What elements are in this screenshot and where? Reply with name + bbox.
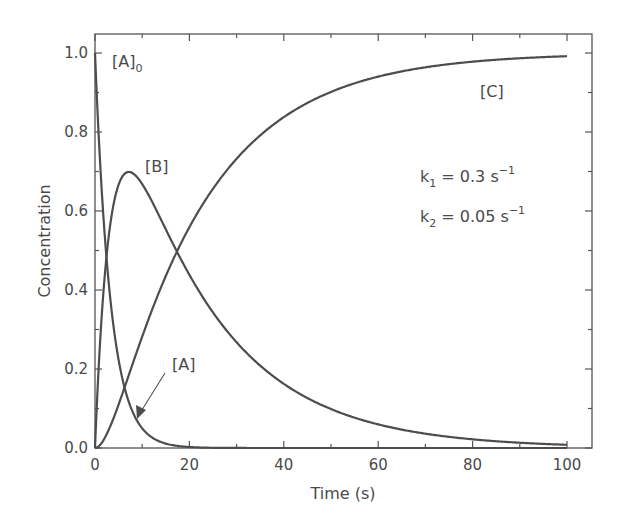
x-tick-label: 60: [369, 456, 388, 474]
y-tick-label: 0.8: [64, 123, 88, 141]
arrow-A-line: [140, 373, 165, 413]
y-tick-label: 0.4: [64, 281, 88, 299]
curves: [95, 53, 567, 448]
label-C: [C]: [480, 82, 504, 101]
label-A0: [A]0: [112, 52, 142, 75]
kinetics-chart: 0204060801000.00.20.40.60.81.0 Time (s) …: [0, 0, 628, 529]
x-tick-label: 0: [90, 456, 100, 474]
x-tick-label: 100: [553, 456, 582, 474]
k1-annotation: k1 = 0.3 s−1: [420, 164, 515, 190]
y-tick-label: 0.0: [64, 439, 88, 457]
y-tick-label: 0.6: [64, 202, 88, 220]
x-axis-label: Time (s): [309, 484, 375, 503]
curve-C: [95, 56, 567, 448]
x-tick-label: 80: [463, 456, 482, 474]
y-tick-label: 0.2: [64, 360, 88, 378]
y-tick-label: 1.0: [64, 44, 88, 62]
k2-annotation: k2 = 0.05 s−1: [420, 204, 525, 230]
arrow-A-head-icon: [136, 405, 146, 419]
x-tick-label: 40: [274, 456, 293, 474]
plot-frame: [95, 34, 592, 448]
curve-A: [95, 53, 567, 448]
y-axis-label: Concentration: [35, 184, 54, 297]
x-tick-label: 20: [180, 456, 199, 474]
label-A: [A]: [172, 355, 195, 374]
label-B: [B]: [145, 157, 168, 176]
